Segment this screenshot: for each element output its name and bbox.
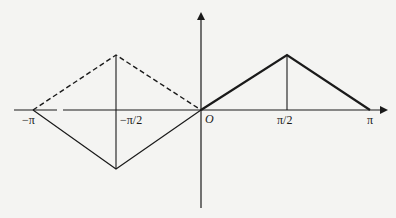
tick-label-neg-pi: −π <box>22 114 35 126</box>
dashed-triangle-left <box>33 55 201 110</box>
function-graph <box>0 0 396 218</box>
tick-label-pi: π <box>367 114 373 126</box>
tick-label-pi-half: π/2 <box>277 114 292 126</box>
lower-v-left <box>33 110 201 169</box>
origin-label: O <box>205 113 214 125</box>
solid-triangle-right <box>201 55 370 110</box>
tick-label-neg-pi-half: −π/2 <box>120 114 142 126</box>
